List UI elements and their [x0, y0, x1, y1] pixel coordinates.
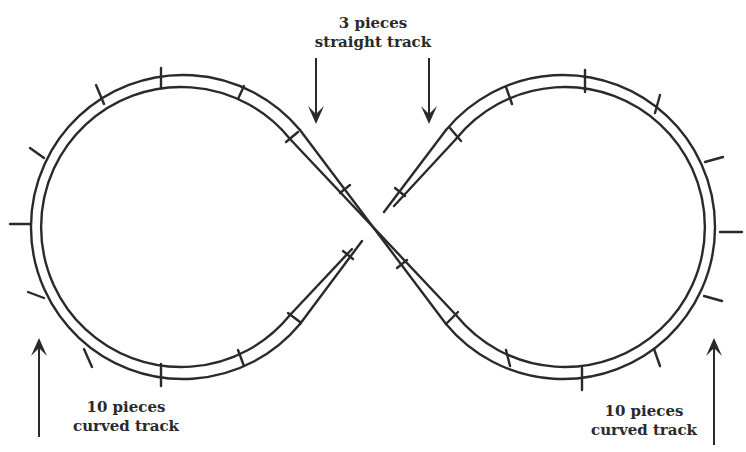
- straight-track-type: straight track: [306, 33, 440, 52]
- left-loop-curved-track: [31, 75, 300, 379]
- straight-track-diagonal-down: [290, 130, 456, 324]
- right-loop-curved-track: [446, 75, 715, 379]
- joint-marker: [704, 296, 722, 301]
- right-curved-track-count: 10 pieces: [574, 402, 714, 421]
- straight-track-label: 3 pieces straight track: [306, 14, 440, 52]
- joint-marker: [705, 157, 723, 162]
- left-curved-track-count: 10 pieces: [56, 398, 196, 417]
- right-curved-track-label: 10 pieces curved track: [574, 402, 714, 440]
- joint-marker: [506, 350, 510, 366]
- figure-eight-track-diagram: [0, 0, 746, 452]
- joint-marker: [288, 313, 300, 322]
- joint-marker: [28, 292, 44, 298]
- arrow-down-left-straight: [308, 58, 324, 124]
- joint-marker: [30, 148, 44, 158]
- joint-marker: [447, 312, 458, 323]
- joint-marker: [506, 87, 512, 104]
- joint-marker: [84, 349, 92, 367]
- left-curved-track-label: 10 pieces curved track: [56, 398, 196, 436]
- arrow-down-right-straight: [421, 58, 437, 124]
- arrow-up-left-loop: [31, 338, 47, 437]
- right-curved-track-type: curved track: [574, 421, 714, 440]
- joint-marker: [238, 86, 244, 99]
- joint-marker: [654, 349, 660, 366]
- left-curved-track-type: curved track: [56, 417, 196, 436]
- straight-track-count: 3 pieces: [306, 14, 440, 33]
